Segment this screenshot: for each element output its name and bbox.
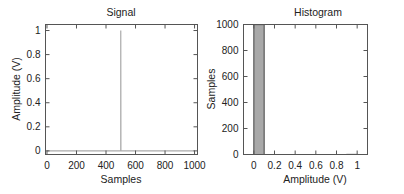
histogram-chart: Histogram 00.20.40.60.81 020040060080010… — [205, 6, 368, 185]
y-tick-label: 200 — [222, 123, 239, 134]
x-tick-label: 0 — [251, 160, 257, 171]
signal-x-label: Samples — [101, 173, 142, 185]
y-tick-label: 0 — [35, 145, 41, 156]
x-tick-label: 1 — [354, 160, 360, 171]
histogram-bar — [254, 25, 264, 155]
y-tick-label: 400 — [222, 97, 239, 108]
signal-y-axis: 00.20.40.60.81 — [27, 25, 198, 156]
y-tick-label: 800 — [222, 45, 239, 56]
histogram-y-label: Samples — [205, 69, 217, 110]
x-tick-label: 0.8 — [330, 160, 344, 171]
y-tick-label: 0.4 — [27, 97, 41, 108]
y-tick-label: 1000 — [216, 19, 239, 30]
x-tick-label: 400 — [98, 160, 115, 171]
signal-x-axis: 02004006008001000 — [44, 25, 206, 171]
signal-line — [47, 31, 195, 151]
histogram-x-axis: 00.20.40.60.81 — [251, 25, 360, 171]
y-tick-label: 0.2 — [27, 121, 41, 132]
signal-y-label: Amplitude (V) — [10, 57, 22, 121]
histogram-plot-area — [254, 25, 357, 155]
signal-chart: Signal 02004006008001000 00.20.40.60.81 … — [10, 6, 206, 185]
figure: Signal 02004006008001000 00.20.40.60.81 … — [0, 0, 404, 194]
x-tick-label: 0 — [44, 160, 50, 171]
signal-frame — [46, 25, 198, 155]
histogram-x-label: Amplitude (V) — [283, 173, 347, 185]
y-tick-label: 0.6 — [27, 73, 41, 84]
x-tick-label: 0.6 — [309, 160, 323, 171]
histogram-y-axis: 02004006008001000 — [216, 19, 367, 160]
y-tick-label: 0 — [233, 149, 239, 160]
x-tick-label: 600 — [127, 160, 144, 171]
y-tick-label: 1 — [35, 25, 41, 36]
x-tick-label: 0.2 — [268, 160, 282, 171]
y-tick-label: 0.8 — [27, 49, 41, 60]
x-tick-label: 1000 — [183, 160, 206, 171]
histogram-title: Histogram — [294, 6, 342, 18]
signal-plot-area — [47, 31, 195, 151]
x-tick-label: 800 — [157, 160, 174, 171]
signal-title: Signal — [106, 6, 135, 18]
y-tick-label: 600 — [222, 71, 239, 82]
x-tick-label: 0.4 — [288, 160, 302, 171]
x-tick-label: 200 — [68, 160, 85, 171]
